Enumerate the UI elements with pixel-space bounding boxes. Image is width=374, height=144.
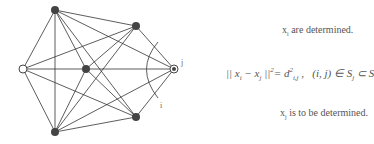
label-i: i	[160, 101, 162, 110]
distance-equation: || xi − xj ||2= d2i,j , (i, j) ∈ Sj ⊂ S	[226, 66, 374, 82]
graph-diagram	[0, 0, 190, 144]
to-determine-text: xj is to be determined.	[280, 107, 368, 120]
label-j: j	[181, 58, 183, 67]
determined-text: xi are determined.	[282, 24, 353, 37]
